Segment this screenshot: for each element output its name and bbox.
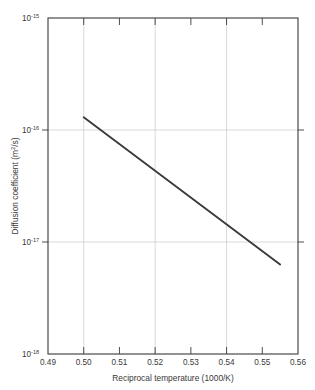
- y-axis-tick-labels: 10-15 10-16 10-17 10-18: [22, 13, 39, 359]
- y-tick-base-3: 10: [22, 14, 32, 23]
- y-tick-base-0: 10: [22, 350, 32, 359]
- y-tick-base-1: 10: [22, 238, 32, 247]
- y-axis-title-tail: /s): [10, 137, 20, 147]
- y-tick-label-1e-16: 10-16: [22, 125, 39, 135]
- x-tick-label-0.49: 0.49: [40, 358, 56, 367]
- y-tick-label-1e-15: 10-15: [22, 13, 39, 23]
- y-tick-exponent-1: -17: [31, 237, 39, 243]
- x-tick-label-0.50: 0.50: [76, 358, 92, 367]
- chart-container: 10-15 10-16 10-17 10-18 0.49 0.50 0.51 0…: [0, 0, 315, 390]
- x-tick-label-0.55: 0.55: [254, 358, 270, 367]
- x-tick-label-0.52: 0.52: [147, 358, 163, 367]
- y-tick-exponent-3: -15: [31, 13, 39, 19]
- plot-area-background: [48, 18, 298, 354]
- x-axis-tick-labels: 0.49 0.50 0.51 0.52 0.53 0.54 0.55 0.56: [40, 358, 306, 367]
- y-tick-label-1e-17: 10-17: [22, 237, 39, 247]
- arrhenius-diffusion-plot: 10-15 10-16 10-17 10-18 0.49 0.50 0.51 0…: [0, 0, 315, 390]
- y-tick-label-1e-18: 10-18: [22, 349, 39, 359]
- x-tick-label-0.53: 0.53: [183, 358, 199, 367]
- y-tick-exponent-0: -18: [31, 349, 39, 355]
- y-tick-base-2: 10: [22, 126, 32, 135]
- x-axis-title: Reciprocal temperature (1000/K): [112, 373, 234, 383]
- y-axis-title-base: Diffusion coefficient (m: [10, 150, 20, 234]
- y-axis-title: Diffusion coefficient (m2/s): [10, 137, 20, 234]
- x-tick-label-0.54: 0.54: [219, 358, 235, 367]
- x-tick-label-0.51: 0.51: [111, 358, 127, 367]
- y-tick-exponent-2: -16: [31, 125, 39, 131]
- x-tick-label-0.56: 0.56: [290, 358, 306, 367]
